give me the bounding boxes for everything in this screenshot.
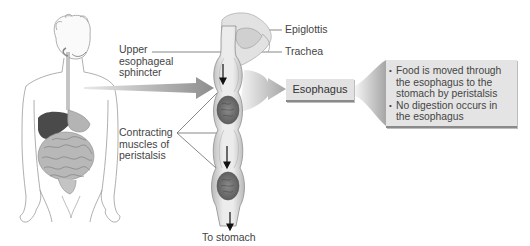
esophagus-tube [212,13,272,230]
label-line: peristalsis [119,150,173,162]
info-box: Food is moved through the esophagus to t… [386,60,517,128]
label-contracting-muscles: Contracting muscles of peristalsis [119,127,173,162]
label-upper-esophageal-sphincter: Upper esophageal sphincter [119,44,173,79]
label-line: Contracting [119,127,173,139]
esophagus-box: Esophagus [286,79,354,102]
zoom-arrow [84,77,214,99]
label-to-stomach: To stomach [202,232,256,244]
label-trachea: Trachea [285,46,323,58]
label-line: sphincter [119,67,173,79]
info-bullet: Food is moved through the esophagus to t… [396,65,513,100]
fan-arrow [240,70,286,112]
info-bullet: No digestion occurs in the esophagus [396,100,513,123]
digestive-organs [38,48,94,194]
info-fan [355,60,386,126]
label-epiglottis: Epiglottis [285,24,328,36]
label-line: Upper [119,44,173,56]
info-bullet-list: Food is moved through the esophagus to t… [386,60,517,123]
